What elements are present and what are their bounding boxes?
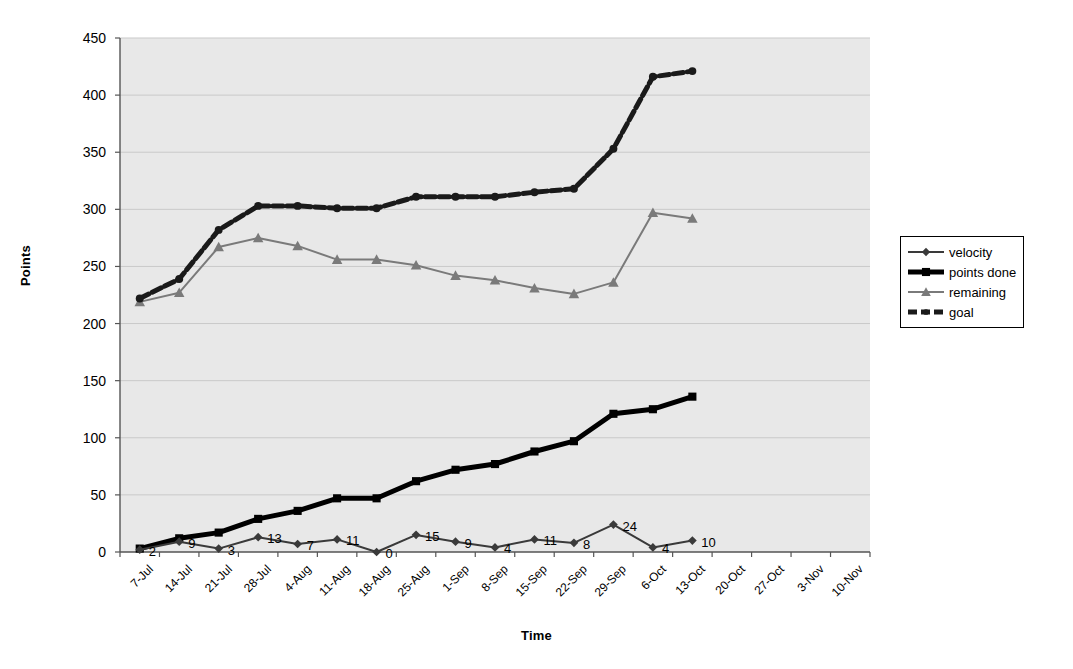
data-point-circle bbox=[373, 204, 381, 212]
legend-key-circle-icon bbox=[906, 305, 946, 319]
burndown-chart: Points Time 050100150200250300350400450 … bbox=[0, 0, 1073, 669]
data-point-circle bbox=[254, 202, 262, 210]
data-label: 3 bbox=[228, 543, 235, 558]
legend-key-diamond-icon bbox=[906, 245, 946, 259]
data-point-square bbox=[922, 268, 930, 276]
data-point-square bbox=[649, 405, 657, 413]
plot-background bbox=[120, 38, 870, 552]
data-label: 10 bbox=[701, 535, 715, 550]
data-point-circle bbox=[570, 185, 578, 193]
data-point-square bbox=[215, 529, 223, 537]
data-point-circle bbox=[412, 193, 420, 201]
legend-label: remaining bbox=[949, 286, 1006, 299]
data-point-circle bbox=[333, 204, 341, 212]
legend-item-points-done[interactable]: points done bbox=[906, 262, 1016, 282]
plot-area: 293137110159411824410 bbox=[0, 0, 1073, 669]
data-point-square bbox=[294, 507, 302, 515]
data-label: 9 bbox=[188, 536, 195, 551]
data-point-circle bbox=[452, 193, 460, 201]
data-point-circle bbox=[649, 73, 657, 81]
data-label: 0 bbox=[386, 546, 393, 561]
legend-item-remaining[interactable]: remaining bbox=[906, 282, 1016, 302]
data-point-circle bbox=[136, 294, 144, 302]
data-label: 13 bbox=[267, 531, 281, 546]
data-label: 4 bbox=[504, 541, 511, 556]
data-point-circle bbox=[294, 202, 302, 210]
data-point-square bbox=[333, 494, 341, 502]
data-point-diamond bbox=[922, 248, 930, 256]
data-label: 4 bbox=[662, 541, 669, 556]
data-point-square bbox=[451, 466, 459, 474]
legend-label: points done bbox=[949, 266, 1016, 279]
data-point-square bbox=[491, 460, 499, 468]
data-label: 9 bbox=[465, 536, 472, 551]
data-point-circle bbox=[609, 145, 617, 153]
data-point-square bbox=[530, 447, 538, 455]
legend-item-goal[interactable]: goal bbox=[906, 302, 1016, 322]
data-label: 2 bbox=[149, 544, 156, 559]
data-point-circle bbox=[215, 226, 223, 234]
data-point-circle bbox=[688, 67, 696, 75]
data-label: 7 bbox=[307, 538, 314, 553]
data-point-circle bbox=[175, 275, 183, 283]
legend-label: goal bbox=[949, 306, 974, 319]
data-point-circle bbox=[923, 309, 929, 315]
data-label: 24 bbox=[622, 519, 636, 534]
data-point-square bbox=[688, 393, 696, 401]
data-label: 11 bbox=[346, 533, 360, 548]
legend-item-velocity[interactable]: velocity bbox=[906, 242, 1016, 262]
legend-key-triangle-icon bbox=[906, 285, 946, 299]
chart-legend: velocitypoints doneremaininggoal bbox=[900, 236, 1024, 328]
data-point-circle bbox=[491, 193, 499, 201]
data-point-square bbox=[412, 477, 420, 485]
legend-label: velocity bbox=[949, 246, 992, 259]
data-point-circle bbox=[531, 188, 539, 196]
data-point-square bbox=[609, 410, 617, 418]
data-point-square bbox=[254, 515, 262, 523]
legend-key-square-icon bbox=[906, 265, 946, 279]
data-point-square bbox=[570, 437, 578, 445]
data-label: 11 bbox=[543, 533, 557, 548]
data-label: 8 bbox=[583, 537, 590, 552]
data-label: 15 bbox=[425, 529, 439, 544]
data-point-square bbox=[373, 494, 381, 502]
